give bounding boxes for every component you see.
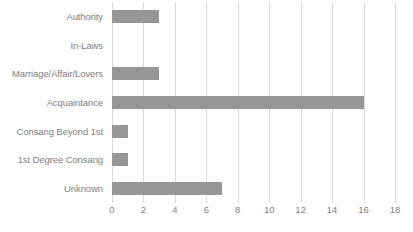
tick-label: 0 — [109, 204, 114, 215]
tick-label: 4 — [172, 204, 177, 215]
gridline — [395, 2, 396, 203]
tick-label: 14 — [327, 204, 338, 215]
category-label: Acquaintance — [0, 88, 108, 117]
bar-row — [112, 59, 395, 88]
tick-label: 8 — [235, 204, 240, 215]
tick-label: 6 — [204, 204, 209, 215]
tick-label: 12 — [295, 204, 306, 215]
bar — [112, 96, 364, 109]
bar-row — [112, 2, 395, 31]
bar — [112, 10, 159, 23]
bar-row — [112, 117, 395, 146]
category-label: 1st Degree Consang — [0, 146, 108, 175]
category-label: Authority — [0, 2, 108, 31]
tick-label: 16 — [358, 204, 369, 215]
bar — [112, 67, 159, 80]
category-label: Consang Beyond 1st — [0, 117, 108, 146]
tick-label: 2 — [141, 204, 146, 215]
bar — [112, 125, 128, 138]
bar-row — [112, 174, 395, 203]
bar — [112, 153, 128, 166]
plot-area — [112, 2, 395, 203]
bar-chart: AuthorityIn-LawsMarriage/Affair/LoversAc… — [0, 0, 413, 232]
category-label: In-Laws — [0, 31, 108, 60]
tick-label: 18 — [390, 204, 401, 215]
category-axis-labels: AuthorityIn-LawsMarriage/Affair/LoversAc… — [0, 2, 108, 203]
bar-row — [112, 146, 395, 175]
bar-row — [112, 88, 395, 117]
value-axis-tick-labels: 024681012141618 — [112, 204, 395, 220]
tick-label: 10 — [264, 204, 275, 215]
bar — [112, 182, 222, 195]
bar-series — [112, 2, 395, 203]
category-label: Marriage/Affair/Lovers — [0, 59, 108, 88]
category-label: Unknown — [0, 174, 108, 203]
bar-row — [112, 31, 395, 60]
